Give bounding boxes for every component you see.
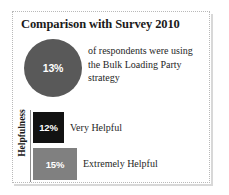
pie-annotation-text: of respondents were using the Bulk Loadi… xyxy=(88,44,206,85)
bar-very-helpful-label: Very Helpful xyxy=(70,122,122,133)
y-axis-label: Helpfulness xyxy=(17,103,27,163)
pie-annotation-line-1: of respondents were using xyxy=(88,44,206,58)
pie-annotation-line-3: strategy xyxy=(88,71,206,85)
pie-annotation-line-2: the Bulk Loading Party xyxy=(88,58,206,72)
bar-extremely-helpful: 15% xyxy=(33,148,77,180)
pie-value-label: 13% xyxy=(24,39,82,97)
panel-title: Comparison with Survey 2010 xyxy=(21,17,180,32)
bar-very-helpful-value: 12% xyxy=(39,122,57,133)
bar-extremely-helpful-value: 15% xyxy=(46,159,64,170)
panel-shadow-bottom xyxy=(14,184,213,186)
panel-shadow-right xyxy=(211,14,213,186)
bar-very-helpful: 12% xyxy=(33,112,64,143)
y-axis-line xyxy=(30,110,31,182)
infographic-panel: Comparison with Survey 2010 13% of respo… xyxy=(0,0,229,195)
bar-extremely-helpful-label: Extremely Helpful xyxy=(83,158,158,169)
pie-circle: 13% xyxy=(24,39,82,97)
